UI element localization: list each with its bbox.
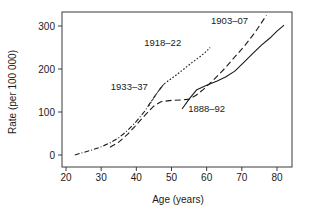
y-axis-ticks xyxy=(58,26,62,155)
y-axis-tick-labels: 0100200300 xyxy=(38,21,55,161)
y-tick-label: 200 xyxy=(38,64,55,75)
y-tick-label: 300 xyxy=(38,21,55,32)
x-tick-label: 80 xyxy=(271,172,283,183)
x-tick-label: 60 xyxy=(201,172,213,183)
chart-container: 20304050607080 0100200300 1933–371918–22… xyxy=(0,0,310,215)
series-annotations: 1933–371918–221903–071888–92 xyxy=(111,15,248,114)
y-tick-label: 0 xyxy=(49,150,55,161)
series-label-1933-37: 1933–37 xyxy=(111,81,148,92)
x-tick-label: 50 xyxy=(166,172,178,183)
x-axis-ticks xyxy=(66,167,277,171)
data-series-curves xyxy=(75,15,284,155)
plot-frame xyxy=(62,12,292,167)
x-tick-label: 70 xyxy=(236,172,248,183)
series-label-1918-22: 1918–22 xyxy=(144,37,181,48)
x-tick-label: 40 xyxy=(131,172,143,183)
rate-by-age-line-chart: 20304050607080 0100200300 1933–371918–22… xyxy=(0,0,310,215)
y-tick-label: 100 xyxy=(38,107,55,118)
series-line-1918-22 xyxy=(149,48,211,106)
series-line-1888-92 xyxy=(182,25,284,109)
series-line-1933-37 xyxy=(75,83,165,155)
series-label-1888-92: 1888–92 xyxy=(188,103,225,114)
y-axis-title: Rate (per 100 000) xyxy=(7,50,18,134)
x-axis-title: Age (years) xyxy=(152,194,204,205)
series-label-1903-07: 1903–07 xyxy=(211,15,248,26)
x-axis-tick-labels: 20304050607080 xyxy=(60,172,283,183)
x-tick-label: 30 xyxy=(96,172,108,183)
x-tick-label: 20 xyxy=(60,172,72,183)
